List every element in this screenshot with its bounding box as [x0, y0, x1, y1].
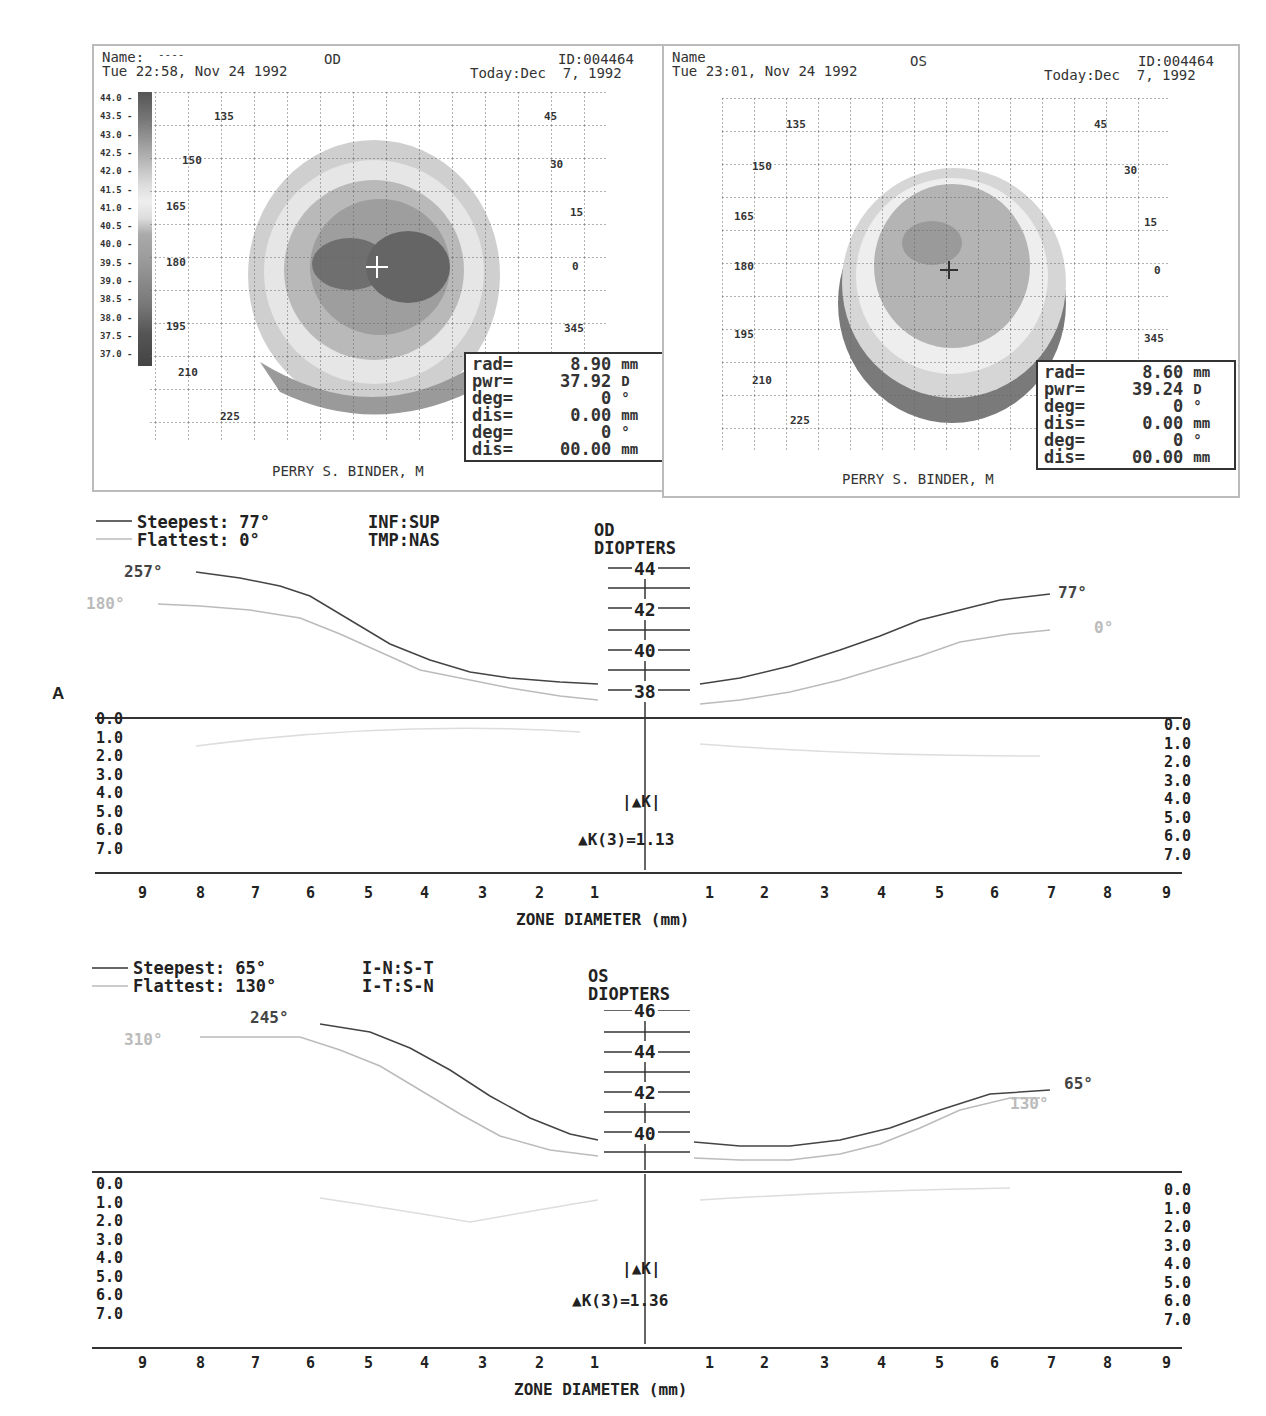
os-orientation-1: I-N:S-T	[362, 960, 434, 977]
diff-scale-value: 5.0	[96, 805, 123, 820]
diff-scale-value: 3.0	[96, 1233, 123, 1248]
measure-u: mm	[611, 407, 656, 424]
measure-row: dis=00.00mm	[472, 441, 656, 458]
diff-scale-value: 7.0	[1164, 848, 1191, 863]
angle-label: 45	[1094, 120, 1107, 129]
os-orientation-2: I-T:S-N	[362, 978, 434, 995]
os-delta-k-label: |▲K|	[622, 1259, 661, 1278]
diff-scale-value: 2.0	[1164, 755, 1191, 770]
od-today-date: Today:Dec 7, 1992	[470, 66, 622, 80]
angle-label: 30	[1124, 166, 1137, 175]
angle-label: 165	[166, 202, 186, 211]
measure-u: D	[1183, 381, 1228, 398]
angle-label: 345	[1144, 334, 1164, 343]
measure-u: mm	[1183, 415, 1228, 432]
diopter-tick: 42	[632, 1082, 658, 1103]
x-tick: 4	[877, 1356, 886, 1371]
diff-scale-value: 7.0	[1164, 1313, 1191, 1328]
diff-scale-value: 5.0	[96, 1270, 123, 1285]
measure-u: mm	[1183, 449, 1228, 466]
scale-value: 42.5 -	[100, 149, 133, 158]
diopter-tick: 46	[632, 1000, 658, 1021]
diff-scale-value: 3.0	[1164, 774, 1191, 789]
os-eye-label: OS	[910, 54, 927, 68]
scale-value: 37.0 -	[100, 350, 133, 359]
measure-v: 37.92	[533, 373, 611, 390]
measure-v: 0.00	[1105, 415, 1183, 432]
x-tick: 3	[820, 1356, 829, 1371]
os-name-label: Name	[672, 50, 706, 64]
diff-scale-value: 5.0	[1164, 811, 1191, 826]
x-tick: 5	[364, 886, 373, 901]
x-tick: 3	[478, 1356, 487, 1371]
scale-value: 44.0 -	[100, 94, 133, 103]
diff-scale-value: 7.0	[96, 842, 123, 857]
scale-value: 40.5 -	[100, 222, 133, 231]
od-flattest-label: Flattest: 0°	[137, 532, 260, 549]
angle-label: 195	[734, 330, 754, 339]
scale-value: 39.5 -	[100, 259, 133, 268]
diff-scale-value: 0.0	[96, 712, 123, 727]
angle-label: 345	[564, 324, 584, 333]
measure-k: dis=	[472, 441, 533, 458]
x-tick: 9	[1162, 1356, 1171, 1371]
x-tick: 3	[478, 886, 487, 901]
od-x-axis-label: ZONE DIAMETER (mm)	[516, 910, 689, 929]
angle-label: 165	[734, 212, 754, 221]
scale-value: 43.5 -	[100, 112, 133, 121]
scale-value: 39.0 -	[100, 277, 133, 286]
os-topography-panel: Name Tue 23:01, Nov 24 1992 OS ID:004464…	[662, 44, 1240, 498]
diff-scale-value: 1.0	[96, 731, 123, 746]
x-tick: 8	[196, 886, 205, 901]
diff-scale-value: 0.0	[96, 1177, 123, 1192]
scale-value: 42.0 -	[100, 167, 133, 176]
x-tick: 8	[1103, 886, 1112, 901]
angle-label: 0	[572, 262, 579, 271]
scale-value: 38.0 -	[100, 314, 133, 323]
diff-scale-value: 4.0	[1164, 1257, 1191, 1272]
diff-scale-value: 6.0	[96, 1288, 123, 1303]
x-tick: 1	[705, 886, 714, 901]
scale-value: 43.0 -	[100, 131, 133, 140]
x-tick: 9	[138, 886, 147, 901]
diff-scale-value: 4.0	[96, 1251, 123, 1266]
angle-label: 210	[752, 376, 772, 385]
measure-u: mm	[1183, 364, 1228, 381]
diff-scale-value: 2.0	[96, 1214, 123, 1229]
measure-v: 00.00	[1105, 449, 1183, 466]
angle-label: 135	[786, 120, 806, 129]
angle-label: 0	[1154, 266, 1161, 275]
diff-scale-value: 4.0	[96, 786, 123, 801]
od-measure-box: rad=8.90mmpwr=37.92Ddeg=0°dis=0.00mmdeg=…	[464, 352, 664, 462]
diff-scale-value: 5.0	[1164, 1276, 1191, 1291]
angle-label: 45	[544, 112, 557, 121]
od-topography-panel: Name: ---- Tue 22:58, Nov 24 1992 OD ID:…	[92, 44, 664, 492]
measure-u: °	[611, 390, 656, 407]
x-tick: 6	[990, 1356, 999, 1371]
diff-scale-value: 0.0	[1164, 718, 1191, 733]
scale-value: 40.0 -	[100, 240, 133, 249]
angle-label: 210	[178, 368, 198, 377]
diopter-tick: 40	[632, 640, 658, 661]
measure-k: dis=	[1044, 449, 1105, 466]
diff-scale-value: 1.0	[1164, 737, 1191, 752]
measure-v: 0.00	[533, 407, 611, 424]
od-diopters-label: DIOPTERS	[594, 540, 676, 557]
measure-u: mm	[611, 356, 656, 373]
od-footer: PERRY S. BINDER, M	[272, 464, 424, 478]
od-exam-datetime: Tue 22:58, Nov 24 1992	[102, 64, 287, 78]
od-patient-id: ID:004464	[558, 52, 634, 66]
os-measure-box: rad=8.60mmpwr=39.24Ddeg=0°dis=0.00mmdeg=…	[1036, 360, 1236, 470]
scale-value: 41.5 -	[100, 186, 133, 195]
x-tick: 2	[760, 1356, 769, 1371]
x-tick: 2	[535, 886, 544, 901]
angle-label: 150	[182, 156, 202, 165]
x-tick: 7	[251, 1356, 260, 1371]
x-tick: 7	[1047, 1356, 1056, 1371]
os-x-axis-label: ZONE DIAMETER (mm)	[514, 1380, 687, 1399]
x-tick: 6	[306, 1356, 315, 1371]
diopter-tick: 38	[632, 681, 658, 702]
x-tick: 6	[306, 886, 315, 901]
x-tick: 6	[990, 886, 999, 901]
diff-scale-value: 7.0	[96, 1307, 123, 1322]
